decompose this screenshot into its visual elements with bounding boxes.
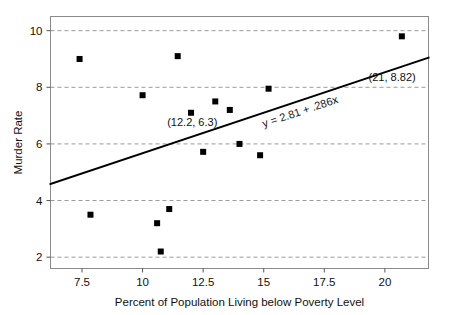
data-point-8 (200, 149, 206, 155)
data-point-14 (399, 33, 405, 39)
y-axis-title: Murder Rate (12, 111, 24, 175)
x-tick-label-7.5: 7.5 (74, 276, 90, 288)
y-tick-label-2: 2 (36, 251, 42, 263)
y-tick-label-10: 10 (30, 25, 43, 37)
chart-canvas: 2468107.51012.51517.520Percent of Popula… (0, 0, 449, 315)
y-tick-label-6: 6 (36, 138, 42, 150)
data-point-9 (212, 98, 218, 104)
data-point-0 (77, 56, 83, 62)
scatter-plot-figure: 2468107.51012.51517.520Percent of Popula… (0, 0, 449, 315)
y-tick-label-4: 4 (36, 195, 43, 207)
x-tick-label-20: 20 (378, 276, 391, 288)
y-tick-label-8: 8 (36, 81, 42, 93)
data-point-1 (87, 212, 93, 218)
data-point-2 (140, 92, 146, 98)
data-point-5 (166, 206, 172, 212)
data-point-6 (175, 53, 181, 59)
data-point-10 (227, 107, 233, 113)
x-tick-label-10: 10 (136, 276, 149, 288)
figure-caption-fragment (0, 303, 449, 315)
x-tick-label-15: 15 (257, 276, 270, 288)
data-point-11 (237, 141, 243, 147)
data-point-3 (154, 220, 160, 226)
data-point-13 (266, 86, 272, 92)
data-point-7 (188, 110, 194, 116)
point-label-21-8-82: (21, 8.82) (369, 71, 416, 83)
x-tick-label-17.5: 17.5 (313, 276, 335, 288)
data-point-4 (158, 249, 164, 255)
data-point-12 (257, 152, 263, 158)
x-tick-label-12.5: 12.5 (192, 276, 214, 288)
point-label-12-2-6-3: (12.2, 6.3) (167, 116, 217, 128)
